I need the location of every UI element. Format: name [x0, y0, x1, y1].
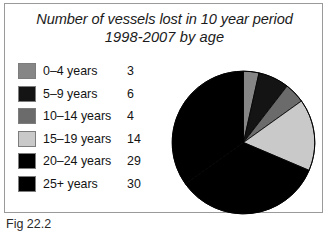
legend-row: 20–24 years29 — [18, 151, 158, 174]
legend-label: 15–19 years — [43, 130, 111, 148]
chart-title-line-1: Number of vessels lost in 10 year period — [13, 11, 316, 29]
legend-row: 0–4 years3 — [18, 61, 158, 84]
legend-label: 5–9 years — [43, 85, 97, 103]
legend-row: 10–14 years4 — [18, 106, 158, 129]
legend-label: 0–4 years — [43, 62, 97, 80]
legend-label: 25+ years — [43, 175, 98, 193]
legend-value: 30 — [127, 175, 141, 193]
legend-swatch — [18, 176, 36, 192]
legend-value: 6 — [127, 85, 134, 103]
legend-swatch — [18, 86, 36, 102]
chart-title-line-2: 1998-2007 by age — [13, 29, 316, 47]
legend-value: 14 — [127, 130, 141, 148]
legend-label: 20–24 years — [43, 152, 111, 170]
legend-swatch — [18, 153, 36, 169]
legend-row: 25+ years30 — [18, 174, 158, 197]
figure-caption: Fig 22.2 — [6, 217, 51, 231]
legend-swatch — [18, 108, 36, 124]
legend-label: 10–14 years — [43, 107, 111, 125]
legend-row: 5–9 years6 — [18, 84, 158, 107]
chart-title: Number of vessels lost in 10 year period… — [13, 11, 316, 46]
legend-value: 29 — [127, 152, 141, 170]
legend-swatch — [18, 63, 36, 79]
legend-swatch — [18, 131, 36, 147]
figure-frame: Number of vessels lost in 10 year period… — [4, 3, 323, 213]
legend-value: 4 — [127, 107, 134, 125]
legend-row: 15–19 years14 — [18, 129, 158, 152]
pie-chart — [171, 70, 316, 215]
legend-value: 3 — [127, 62, 134, 80]
chart-legend: 0–4 years35–9 years610–14 years415–19 ye… — [18, 61, 158, 197]
